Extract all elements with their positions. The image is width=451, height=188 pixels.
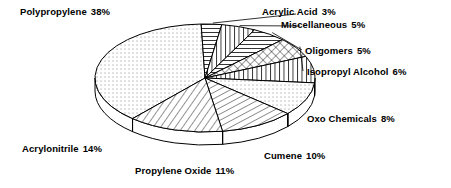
slice-label-miscellaneous: Miscellaneous5% — [281, 19, 365, 30]
pie-chart-graphic — [0, 0, 451, 188]
label-pct-cumene: 10% — [306, 150, 325, 161]
label-text-polypropylene: Polypropylene — [20, 6, 87, 17]
label-pct-acrylic-acid: 3% — [322, 6, 336, 17]
slice-label-cumene: Cumene10% — [264, 150, 325, 161]
label-text-propylene-oxide: Propylene Oxide — [135, 165, 211, 176]
label-text-isopropyl-alcohol: Isopropyl Alcohol — [307, 66, 389, 77]
label-pct-propylene-oxide: 11% — [215, 165, 234, 176]
slice-label-oxo-chemicals: Oxo Chemicals8% — [307, 113, 395, 124]
pie-top-faces — [95, 24, 315, 132]
label-pct-oxo-chemicals: 8% — [381, 113, 395, 124]
pie-chart-figure: Polypropylene38% Acrylic Acid3% Miscella… — [0, 0, 451, 188]
slice-label-propylene-oxide: Propylene Oxide11% — [135, 165, 234, 176]
label-text-acrylonitrile: Acrylonitrile — [22, 143, 79, 154]
label-text-oligomers: Oligomers — [305, 45, 353, 56]
pie-slices-group — [95, 24, 315, 145]
label-text-acrylic-acid: Acrylic Acid — [262, 6, 318, 17]
label-pct-isopropyl-alcohol: 6% — [393, 66, 407, 77]
label-text-cumene: Cumene — [264, 150, 302, 161]
label-pct-polypropylene: 38% — [91, 6, 110, 17]
slice-label-polypropylene: Polypropylene38% — [20, 6, 110, 17]
slice-label-acrylic-acid: Acrylic Acid3% — [262, 6, 336, 17]
slice-label-oligomers: Oligomers5% — [305, 45, 371, 56]
label-pct-acrylonitrile: 14% — [83, 143, 102, 154]
label-text-oxo-chemicals: Oxo Chemicals — [307, 113, 377, 124]
slice-label-acrylonitrile: Acrylonitrile14% — [22, 143, 102, 154]
label-pct-miscellaneous: 5% — [351, 19, 365, 30]
label-pct-oligomers: 5% — [357, 45, 371, 56]
label-text-miscellaneous: Miscellaneous — [281, 19, 347, 30]
slice-label-isopropyl-alcohol: Isopropyl Alcohol6% — [307, 66, 407, 77]
